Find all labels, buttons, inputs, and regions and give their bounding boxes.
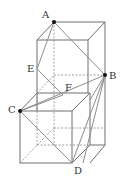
point-a-dot	[52, 20, 56, 24]
point-b-dot	[103, 73, 107, 77]
label-b: B	[109, 71, 116, 81]
geometry-figure	[0, 0, 128, 181]
label-c: C	[8, 105, 16, 115]
label-a: A	[42, 10, 49, 20]
segments	[20, 22, 105, 163]
label-d: D	[74, 166, 82, 176]
point-c-dot	[18, 109, 22, 113]
label-f: F	[65, 83, 72, 93]
label-e: E	[27, 64, 34, 74]
